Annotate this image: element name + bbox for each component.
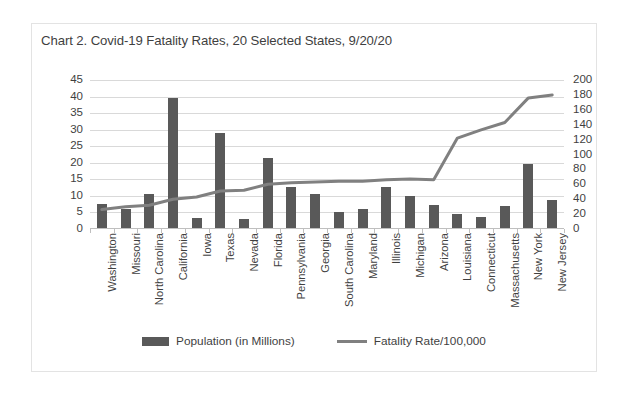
bar [500,206,510,229]
gridline [90,130,564,131]
x-axis-category-label: Pennsylvania [296,233,307,300]
gridline [90,80,564,81]
gridline [90,179,564,180]
right-axis-tick-label: 200 [573,74,592,86]
bar [97,204,107,229]
bar [168,98,178,229]
bar [523,164,533,229]
x-axis-category-label: Connecticut [486,233,497,292]
left-axis-tick-label: 35 [70,107,83,119]
x-axis-category-label: North Carolina [154,233,165,305]
x-axis-category-label: Massachusetts [510,233,521,308]
bar [381,187,391,229]
legend-item-population: Population (in Millions) [142,334,295,348]
x-axis-category-label: Florida [273,233,284,267]
x-axis-category-label: Texas [225,233,236,262]
left-axis-tick-label: 5 [77,206,83,218]
x-axis-category-label: Maryland [368,233,379,279]
gridline [90,146,564,147]
line-swatch-icon [337,340,367,343]
bar [547,200,557,229]
x-axis-category-label: Illinois [391,233,402,264]
right-axis-tick-label: 120 [573,134,592,146]
bar [286,187,296,229]
left-axis-tick-label: 40 [70,91,83,103]
x-axis-category-label: Louisiana [462,233,473,281]
right-axis-tick-label: 80 [573,163,586,175]
right-axis-tick-label: 20 [573,208,586,220]
x-axis-category-label: Nevada [249,233,260,272]
right-axis-tick-label: 0 [573,223,579,235]
legend-label-fatality-rate: Fatality Rate/100,000 [374,334,486,348]
right-axis-tick-label: 160 [573,104,592,116]
bar [334,212,344,229]
x-axis-category-label: Washington [107,233,118,292]
bar [310,194,320,229]
x-axis-category-label: Georgia [320,233,331,273]
x-axis-category-label: Iowa [202,233,213,257]
left-axis-tick-label: 20 [70,157,83,169]
bar [358,209,368,229]
bar-swatch-icon [142,337,169,346]
chart-container: Chart 2. Covid-19 Fatality Rates, 20 Sel… [31,23,597,372]
bar [405,196,415,229]
left-axis-tick-label: 10 [70,190,83,202]
line-series-fatality-rate [90,80,564,229]
x-axis-category-label: New York [533,233,544,280]
bar [452,214,462,229]
right-axis-tick-label: 180 [573,89,592,101]
gridline [90,212,564,213]
x-axis-tick [90,229,91,233]
right-axis-tick-label: 100 [573,149,592,161]
bar [215,133,225,229]
bar [121,209,131,229]
legend-label-population: Population (in Millions) [176,334,295,348]
bar [144,194,154,229]
bar [429,205,439,229]
gridline [90,163,564,164]
x-axis-category-label: South Carolina [344,233,355,307]
left-axis-tick-label: 0 [77,223,83,235]
left-axis-tick-label: 25 [70,140,83,152]
bar [263,158,273,229]
left-axis-tick-label: 30 [70,124,83,136]
left-axis-tick-label: 45 [70,74,83,86]
gridline [90,113,564,114]
right-axis-tick-label: 40 [573,193,586,205]
legend-item-fatality-rate: Fatality Rate/100,000 [337,334,486,348]
x-axis-category-label: Missouri [131,233,142,275]
plot-area: 051015202530354045 020406080100120140160… [90,80,564,229]
gridline [90,97,564,98]
x-axis-category-label: California [178,233,189,280]
gridline [90,196,564,197]
x-axis-category-label: New Jersey [557,233,568,291]
right-axis-tick-label: 140 [573,119,592,131]
right-axis-tick-label: 60 [573,178,586,190]
chart-legend: Population (in Millions) Fatality Rate/1… [32,334,596,348]
x-axis-category-label: Michigan [415,233,426,278]
left-axis-tick-label: 15 [70,173,83,185]
x-axis-category-label: Arizona [439,233,450,271]
chart-title: Chart 2. Covid-19 Fatality Rates, 20 Sel… [41,33,392,48]
